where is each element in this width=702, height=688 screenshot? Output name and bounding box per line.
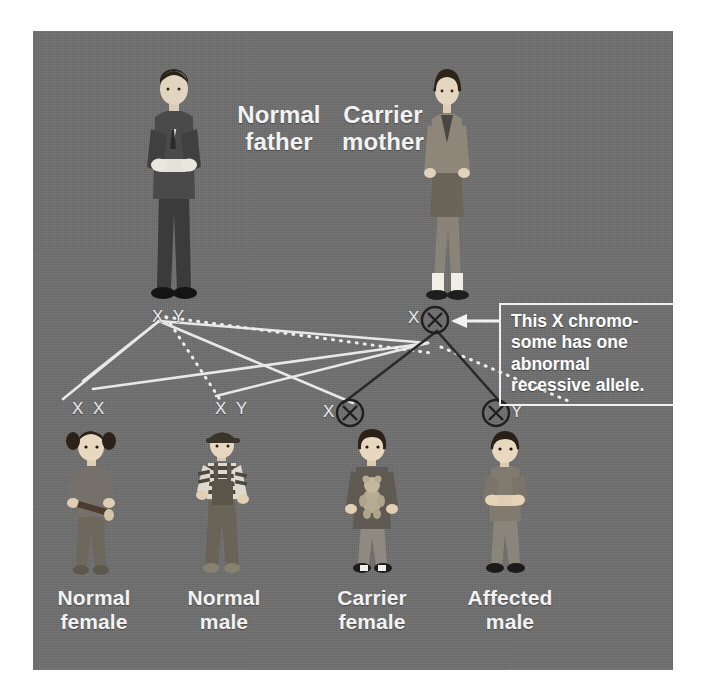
callout-arrow-icon <box>451 314 499 328</box>
normal-male-label-line1: Normal <box>168 586 280 610</box>
carrier-female-label-line2: female <box>316 610 428 634</box>
normal-female-label-line2: female <box>38 610 150 634</box>
genotype-normal-father: X Y <box>152 307 187 327</box>
carrier-female-label-line1: Carrier <box>316 586 428 610</box>
diagram-canvas: X Y X X X X Y X Y Normal father Carrier … <box>0 0 702 688</box>
diagram-panel: X Y X X X X Y X Y Normal father Carrier … <box>33 31 673 670</box>
normal-father-label-line1: Normal <box>219 101 339 128</box>
normal-female-label-line1: Normal <box>38 586 150 610</box>
callout-line4: recessive allele. <box>511 375 673 396</box>
callout-line1: This X chromo- <box>511 311 673 332</box>
mother-abnormal-x-symbol <box>422 307 448 333</box>
affected-male-label: Affected male <box>450 586 570 634</box>
affected-male-label-line1: Affected <box>450 586 570 610</box>
callout-box: This X chromo- some has one abnormal rec… <box>499 303 673 406</box>
callout-line2: some has one <box>511 332 673 353</box>
callout-line3: abnormal <box>511 354 673 375</box>
carrier-female-label: Carrier female <box>316 586 428 634</box>
carrier-mother-label-line2: mother <box>323 128 443 155</box>
normal-female-label: Normal female <box>38 586 150 634</box>
carrier-mother-label-line1: Carrier <box>323 101 443 128</box>
normal-father-label: Normal father <box>219 101 339 156</box>
genotype-normal-male: X Y <box>215 399 250 419</box>
genotype-normal-female: X X <box>72 399 107 419</box>
normal-male-label: Normal male <box>168 586 280 634</box>
carrier-female-abnormal-x-symbol <box>337 400 363 426</box>
normal-father-label-line2: father <box>219 128 339 155</box>
genotype-carrier-mother: X <box>408 308 422 328</box>
normal-male-label-line2: male <box>168 610 280 634</box>
genotype-carrier-female: X <box>323 402 337 422</box>
carrier-mother-label: Carrier mother <box>323 101 443 156</box>
affected-male-label-line2: male <box>450 610 570 634</box>
